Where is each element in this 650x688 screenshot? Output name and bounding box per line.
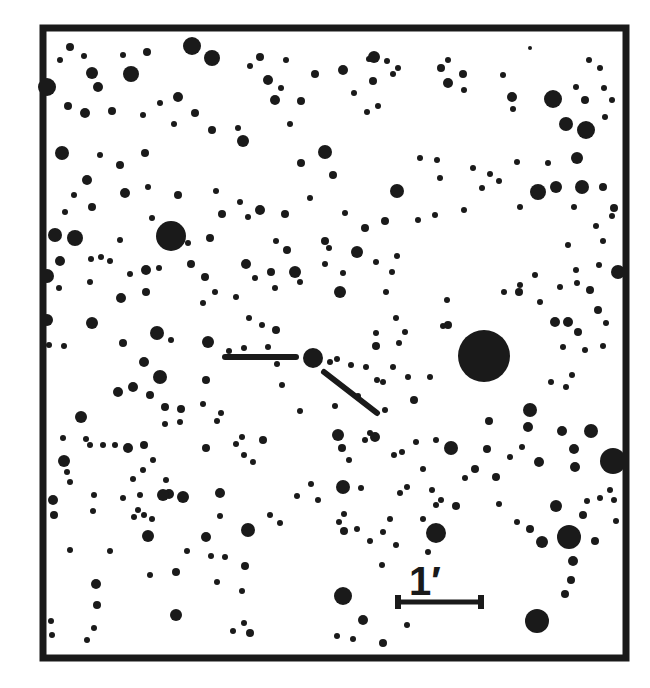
star (399, 449, 405, 455)
star (98, 254, 104, 260)
star (131, 514, 137, 520)
star (444, 321, 452, 329)
star (342, 210, 348, 216)
star (487, 171, 493, 177)
star (184, 548, 190, 554)
star (172, 568, 180, 576)
star (433, 437, 439, 443)
star (250, 459, 256, 465)
star (444, 297, 450, 303)
star (289, 266, 301, 278)
star (119, 339, 127, 347)
star (565, 242, 571, 248)
star (363, 364, 369, 370)
star (397, 490, 403, 496)
star (514, 159, 520, 165)
star (241, 259, 251, 269)
star (140, 112, 146, 118)
pointer-line (324, 372, 377, 413)
star (156, 221, 186, 251)
star (396, 340, 402, 346)
star (600, 343, 606, 349)
star (142, 530, 154, 542)
star (452, 502, 460, 510)
star (569, 372, 575, 378)
star (383, 289, 389, 295)
star (611, 497, 617, 503)
star (201, 273, 209, 281)
star (241, 523, 255, 537)
star (514, 519, 520, 525)
star (390, 71, 396, 77)
star (163, 477, 169, 483)
star (496, 501, 502, 507)
star (259, 436, 267, 444)
star (433, 502, 439, 508)
star (425, 549, 431, 555)
star (127, 271, 133, 277)
star (437, 64, 445, 72)
star (340, 527, 348, 535)
star (55, 146, 69, 160)
star (307, 195, 313, 201)
star (213, 188, 219, 194)
star (245, 214, 251, 220)
star (459, 70, 467, 78)
star (560, 344, 566, 350)
star (375, 103, 381, 109)
star (135, 507, 141, 513)
star (255, 205, 265, 215)
star (492, 473, 500, 481)
star (404, 484, 410, 490)
star (168, 337, 174, 343)
star (143, 48, 151, 56)
star (157, 100, 163, 106)
star (607, 487, 613, 493)
star (382, 407, 388, 413)
star (380, 379, 386, 385)
star (93, 82, 103, 92)
star (297, 408, 303, 414)
star (116, 161, 124, 169)
scale-indicator: 1′ (395, 559, 484, 609)
star (364, 109, 370, 115)
star (123, 66, 139, 82)
star (120, 188, 130, 198)
star (218, 410, 224, 416)
chart-frame (43, 28, 626, 658)
star (610, 204, 618, 212)
star (415, 217, 421, 223)
star (177, 419, 183, 425)
star (601, 85, 607, 91)
star (90, 508, 96, 514)
star (208, 553, 214, 559)
star (57, 57, 63, 63)
star (545, 160, 551, 166)
star (561, 590, 569, 598)
star (368, 51, 380, 63)
star (139, 357, 149, 367)
star (233, 294, 239, 300)
star (183, 37, 201, 55)
star (120, 52, 126, 58)
star (445, 57, 451, 63)
star (67, 547, 73, 553)
star (389, 269, 395, 275)
star (200, 300, 206, 306)
star (80, 108, 90, 118)
star (358, 485, 364, 491)
star (55, 256, 65, 266)
star (340, 270, 346, 276)
star (265, 344, 271, 350)
star (358, 615, 368, 625)
star (372, 342, 380, 350)
star (462, 475, 468, 481)
star (87, 442, 93, 448)
star (362, 437, 368, 443)
star (517, 204, 523, 210)
star (393, 315, 399, 321)
star (557, 284, 563, 290)
star (348, 362, 354, 368)
star (602, 114, 608, 120)
star (146, 391, 154, 399)
